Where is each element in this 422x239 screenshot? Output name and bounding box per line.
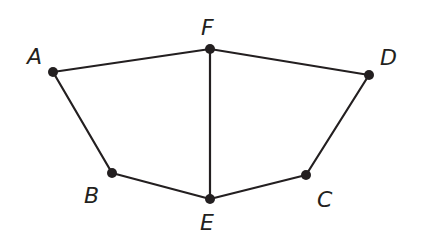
segment-cd	[306, 75, 369, 175]
point-f	[205, 44, 215, 54]
label-c: C	[317, 187, 333, 212]
point-b	[107, 168, 117, 178]
segment-ec	[210, 175, 306, 199]
label-e: E	[200, 210, 214, 235]
label-b: B	[84, 183, 99, 208]
segment-ab	[53, 72, 112, 173]
segment-fd	[210, 49, 369, 75]
segment-af	[53, 49, 210, 72]
segments	[53, 49, 369, 199]
point-c	[301, 170, 311, 180]
point-e	[205, 194, 215, 204]
segment-be	[112, 173, 210, 199]
label-d: D	[380, 45, 397, 70]
point-a	[48, 67, 58, 77]
geometry-diagram: A F D B E C	[0, 0, 422, 239]
label-f: F	[201, 15, 214, 40]
point-d	[364, 70, 374, 80]
label-a: A	[25, 44, 42, 69]
